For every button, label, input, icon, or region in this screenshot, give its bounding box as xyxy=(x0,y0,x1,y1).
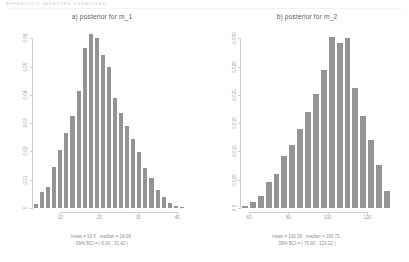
bar-series-b xyxy=(241,30,391,208)
histogram-bar xyxy=(367,140,375,208)
y-axis-tick-label: 0.02 xyxy=(26,151,31,160)
plot-area-b: 0.00.0050.0100.0150.0200.0250.030 608010… xyxy=(241,30,391,222)
panel-posterior-m1: a) posterior for m_1 00.010.020.030.040.… xyxy=(0,10,204,262)
bar-series-a xyxy=(33,30,185,208)
histogram-bar xyxy=(320,70,328,208)
caption-b-line2: 99% BCI = ( 75.93 , 123.12 ) xyxy=(205,241,409,248)
y-axis-b: 0.00.0050.0100.0150.0200.0250.030 xyxy=(233,30,241,208)
y-axis-tick-label: 0.025 xyxy=(234,67,239,79)
x-axis-tick-label: 120 xyxy=(363,215,371,220)
x-axis-line xyxy=(249,212,367,213)
histogram-bar xyxy=(288,145,296,208)
x-axis-line xyxy=(60,212,177,213)
x-axis-tick-label: 40 xyxy=(175,215,180,220)
histogram-bar xyxy=(328,37,336,208)
y-axis-tick-label: 0.005 xyxy=(234,180,239,192)
y-axis-tick-label: 0.06 xyxy=(26,38,31,47)
histogram-bar xyxy=(273,174,281,208)
x-axis-tick-label: 80 xyxy=(286,215,291,220)
y-axis-tick-label: 0 xyxy=(26,208,31,211)
histogram-bar xyxy=(296,129,304,208)
x-axis-a: 10203040 xyxy=(33,208,185,222)
panel-title-a: a) posterior for m_1 xyxy=(0,13,204,20)
y-axis-tick-label: 0.015 xyxy=(234,123,239,135)
panel-title-b: b) posterior for m_2 xyxy=(205,13,409,20)
y-axis-tick-label: 0.01 xyxy=(26,180,31,189)
caption-a-line2: 99% BCI = ( 6.91 , 31.42 ) xyxy=(0,241,204,248)
histogram-bar xyxy=(359,116,367,208)
histogram-bar xyxy=(336,43,344,208)
histogram-bar xyxy=(304,112,312,208)
running-header: APPENDIX C SELECTED EXERCISES xyxy=(6,1,403,7)
y-axis-tick-label: 0.030 xyxy=(234,38,239,50)
y-axis-tick-label: 0.010 xyxy=(234,151,239,163)
histogram-bar xyxy=(375,165,383,208)
header-divider xyxy=(6,8,403,9)
histogram-bar xyxy=(312,94,320,208)
x-axis-b: 6080100120 xyxy=(241,208,391,222)
x-axis-tick-label: 20 xyxy=(97,215,102,220)
y-axis-a: 00.010.020.030.040.050.06 xyxy=(25,30,33,208)
x-axis-tick-label: 10 xyxy=(58,215,63,220)
x-axis-tick-label: 60 xyxy=(246,215,251,220)
y-axis-tick-label: 0.03 xyxy=(26,123,31,132)
plot-area-a: 00.010.020.030.040.050.06 10203040 xyxy=(33,30,185,222)
y-axis-tick-label: 0.020 xyxy=(234,95,239,107)
figure-posterior-histograms: a) posterior for m_1 00.010.020.030.040.… xyxy=(0,10,409,262)
caption-a: mean = 19.5 , median = 19.09 , 99% BCI =… xyxy=(0,234,204,247)
x-axis-tick-label: 100 xyxy=(324,215,332,220)
histogram-bar xyxy=(257,196,265,208)
histogram-bar xyxy=(265,182,273,208)
y-axis-tick-label: 0.05 xyxy=(26,67,31,76)
panel-posterior-m2: b) posterior for m_2 0.00.0050.0100.0150… xyxy=(205,10,409,262)
histogram-bar xyxy=(383,191,391,208)
histogram-bar xyxy=(280,156,288,208)
x-axis-tick-label: 30 xyxy=(136,215,141,220)
y-axis-tick-label: 0.04 xyxy=(26,95,31,104)
y-axis-tick-label: 0.0 xyxy=(234,208,239,214)
histogram-bar xyxy=(344,38,352,208)
caption-b: mean = 100.39 , median = 100.73 , 99% BC… xyxy=(205,234,409,247)
histogram-bar xyxy=(351,88,359,208)
